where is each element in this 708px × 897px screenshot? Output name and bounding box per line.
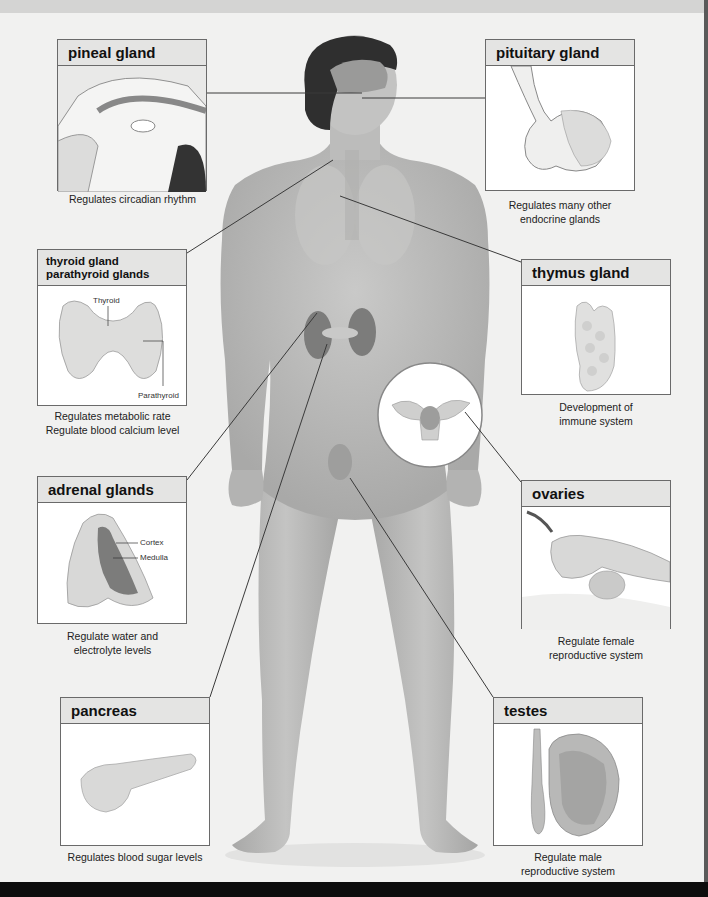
- ovaries-title: ovaries: [522, 481, 670, 507]
- adrenal-gland-caption: Regulate water and electrolyte levels: [25, 630, 200, 657]
- thyroid-gland-illustration: Thyroid Parathyroid: [38, 286, 186, 408]
- ovaries-box: ovaries: [521, 480, 671, 629]
- medulla-label: Medulla: [140, 553, 168, 562]
- pancreas-box: pancreas: [60, 697, 210, 846]
- thymus-gland-box: thymus gland: [521, 259, 671, 395]
- pineal-gland-title: pineal gland: [58, 40, 206, 66]
- thyroid-label: Thyroid: [93, 296, 120, 305]
- pineal-gland-illustration: [58, 66, 206, 192]
- ovaries-illustration: [522, 507, 670, 630]
- adrenal-gland-box: adrenal glands Cortex Medulla: [37, 476, 187, 624]
- pancreas-caption: Regulates blood sugar levels: [45, 851, 225, 865]
- pineal-gland-box: pineal gland: [57, 39, 207, 191]
- pituitary-gland-caption: Regulates many other endocrine glands: [470, 199, 650, 226]
- thyroid-gland-title: thyroid gland parathyroid glands: [38, 250, 186, 286]
- bottom-bar: [0, 882, 708, 897]
- thymus-gland-illustration: [522, 286, 670, 396]
- pancreas-title: pancreas: [61, 698, 209, 724]
- testes-illustration: [494, 724, 642, 847]
- pineal-gland-caption: Regulates circadian rhythm: [40, 193, 225, 207]
- thymus-gland-caption: Development of immune system: [511, 401, 681, 428]
- testes-box: testes: [493, 697, 643, 846]
- cortex-label: Cortex: [140, 538, 164, 547]
- testes-title: testes: [494, 698, 642, 724]
- pituitary-gland-box: pituitary gland: [485, 39, 635, 191]
- pituitary-gland-title: pituitary gland: [486, 40, 634, 66]
- adrenal-gland-illustration: Cortex Medulla: [38, 503, 186, 625]
- pancreas-illustration: [61, 724, 209, 847]
- thyroid-gland-caption: Regulates metabolic rate Regulate blood …: [25, 410, 200, 437]
- parathyroid-label: Parathyroid: [138, 391, 179, 400]
- thyroid-gland-box: thyroid gland parathyroid glands Thyroid…: [37, 249, 187, 406]
- pituitary-gland-illustration: [486, 66, 634, 192]
- ovaries-caption: Regulate female reproductive system: [511, 635, 681, 662]
- thymus-gland-title: thymus gland: [522, 260, 670, 286]
- adrenal-gland-title: adrenal glands: [38, 477, 186, 503]
- testes-caption: Regulate male reproductive system: [483, 851, 653, 878]
